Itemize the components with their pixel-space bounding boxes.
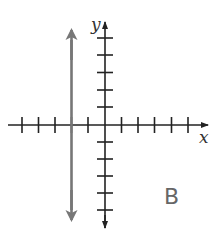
x-axis [8,117,208,133]
coordinate-plane: y x B [0,0,216,229]
y-axis-label: y [90,14,101,34]
panel-label: B [164,184,179,209]
x-axis-label: x [199,127,209,147]
